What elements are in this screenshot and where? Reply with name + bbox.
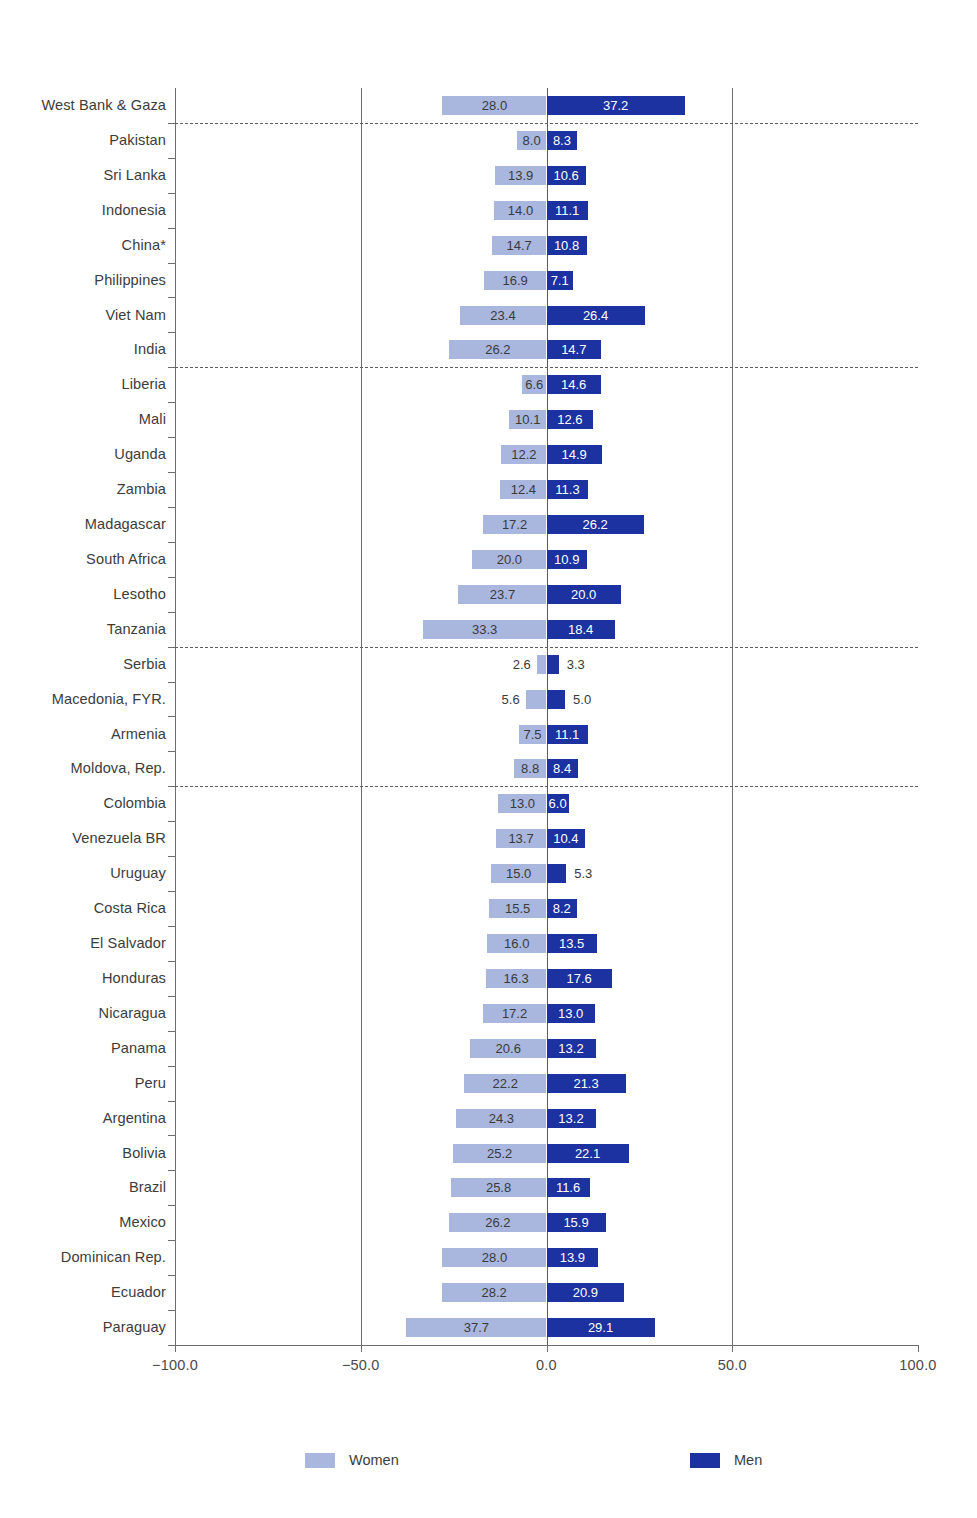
bar-value-label-women: 6.6 (522, 375, 547, 394)
y-axis-tick (168, 297, 175, 298)
y-axis-category-label: Armenia (0, 717, 166, 752)
chart-row: Philippines16.97.1 (175, 263, 918, 298)
x-axis-tick-label: −100.0 (115, 1357, 235, 1373)
y-axis-category-label: Tanzania (0, 612, 166, 647)
bar-value-label-women: 25.8 (451, 1178, 547, 1197)
chart-row: China*14.710.8 (175, 228, 918, 263)
bar-value-label-women: 12.4 (500, 480, 546, 499)
bar-value-label-women: 8.8 (514, 759, 547, 778)
y-axis-tick (168, 402, 175, 403)
y-axis-category-label: Mali (0, 402, 166, 437)
bar-value-label-men: 3.3 (567, 655, 601, 674)
x-axis-tick (361, 1345, 362, 1352)
y-axis-category-label: Philippines (0, 263, 166, 298)
y-axis-category-label: India (0, 332, 166, 367)
chart-row: Pakistan8.08.3 (175, 123, 918, 158)
x-axis-tick-label: 0.0 (487, 1357, 607, 1373)
bar-value-label-women: 2.6 (499, 655, 531, 674)
chart-row: Costa Rica15.58.2 (175, 891, 918, 926)
chart-row: Tanzania33.318.4 (175, 612, 918, 647)
chart-row: West Bank & Gaza28.037.2 (175, 88, 918, 123)
bar-value-label-men: 10.9 (547, 550, 587, 569)
bar-value-label-men: 13.0 (547, 1004, 595, 1023)
y-axis-category-label: China* (0, 228, 166, 263)
bar-value-label-women: 26.2 (449, 340, 546, 359)
bar-value-label-men: 8.2 (547, 899, 577, 918)
bar-value-label-women: 10.1 (509, 410, 547, 429)
chart-row: Venezuela BR13.710.4 (175, 821, 918, 856)
y-axis-category-label: Macedonia, FYR. (0, 682, 166, 717)
bar-value-label-men: 11.1 (547, 725, 588, 744)
chart-row: Armenia7.511.1 (175, 717, 918, 752)
bar-value-label-men: 12.6 (547, 410, 594, 429)
bar-value-label-women: 25.2 (453, 1144, 547, 1163)
chart-row: Macedonia, FYR.5.65.0 (175, 682, 918, 717)
bar-men (547, 655, 559, 674)
bar-value-label-women: 16.3 (486, 969, 547, 988)
bar-women (537, 655, 547, 674)
y-axis-tick (168, 891, 175, 892)
chart-row: Ecuador28.220.9 (175, 1275, 918, 1310)
bar-value-label-women: 14.0 (494, 201, 546, 220)
y-axis-tick (168, 228, 175, 229)
y-axis-tick (168, 1170, 175, 1171)
x-axis-tick (918, 1345, 919, 1352)
y-axis-category-label: El Salvador (0, 926, 166, 961)
y-axis-category-label: Uganda (0, 437, 166, 472)
bar-value-label-men: 13.9 (547, 1248, 599, 1267)
chart-row: Viet Nam23.426.4 (175, 298, 918, 333)
bar-value-label-women: 13.7 (496, 829, 547, 848)
bar-value-label-men: 26.2 (547, 515, 644, 534)
y-axis-category-label: Pakistan (0, 123, 166, 158)
y-axis-tick (168, 716, 175, 717)
chart-row: Mexico26.215.9 (175, 1205, 918, 1240)
y-axis-category-label: Nicaragua (0, 996, 166, 1031)
bar-value-label-women: 28.2 (442, 1283, 547, 1302)
chart-row: Dominican Rep.28.013.9 (175, 1240, 918, 1275)
legend-label-women: Women (349, 1449, 399, 1471)
x-axis-tick-label: −50.0 (301, 1357, 421, 1373)
bar-value-label-women: 7.5 (519, 725, 547, 744)
bar-value-label-men: 20.0 (547, 585, 621, 604)
bar-men (547, 864, 567, 883)
legend-swatch-women (305, 1453, 335, 1468)
bar-value-label-men: 11.1 (547, 201, 588, 220)
chart-row: Brazil25.811.6 (175, 1170, 918, 1205)
y-axis-category-label: West Bank & Gaza (0, 88, 166, 123)
chart-row: Zambia12.411.3 (175, 472, 918, 507)
y-axis-category-label: Uruguay (0, 856, 166, 891)
y-axis-tick (168, 751, 175, 752)
bar-value-label-women: 17.2 (483, 1004, 547, 1023)
bar-value-label-men: 15.9 (547, 1213, 606, 1232)
y-axis-tick (168, 612, 175, 613)
y-axis-category-label: Colombia (0, 786, 166, 821)
chart-row: Uruguay15.05.3 (175, 856, 918, 891)
bar-value-label-women: 13.0 (498, 794, 546, 813)
y-axis-tick (168, 1310, 175, 1311)
bar-value-label-women: 28.0 (442, 96, 546, 115)
y-axis-tick (168, 856, 175, 857)
chart-row: Honduras16.317.6 (175, 961, 918, 996)
bar-value-label-men: 14.9 (547, 445, 602, 464)
bar-value-label-men: 10.8 (547, 236, 587, 255)
y-axis-tick (168, 1240, 175, 1241)
y-axis-tick (168, 786, 175, 787)
legend-swatch-men (690, 1453, 720, 1468)
bar-value-label-women: 15.0 (491, 864, 547, 883)
bar-value-label-women: 23.7 (458, 585, 546, 604)
bar-value-label-men: 14.6 (547, 375, 601, 394)
bar-value-label-men: 13.2 (547, 1039, 596, 1058)
y-axis-tick (168, 996, 175, 997)
bar-value-label-men: 14.7 (547, 340, 602, 359)
y-axis-tick (168, 332, 175, 333)
chart-row: Argentina24.313.2 (175, 1101, 918, 1136)
bar-value-label-men: 13.2 (547, 1109, 596, 1128)
y-axis-category-label: Zambia (0, 472, 166, 507)
bar-value-label-men: 10.6 (547, 166, 586, 185)
y-axis-category-label: Honduras (0, 961, 166, 996)
x-axis-tick (547, 1345, 548, 1352)
y-axis-category-label: Moldova, Rep. (0, 751, 166, 786)
y-axis-tick (168, 263, 175, 264)
chart-row: Colombia13.06.0 (175, 786, 918, 821)
bar-value-label-men: 17.6 (547, 969, 612, 988)
